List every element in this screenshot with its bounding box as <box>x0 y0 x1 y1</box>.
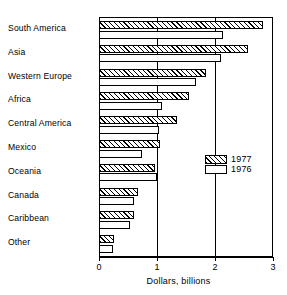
x-tick-1 <box>157 257 158 261</box>
bar-group <box>99 18 274 42</box>
x-tick-2 <box>215 257 216 261</box>
x-tick-label-0: 0 <box>96 262 101 272</box>
bar-1977 <box>99 45 248 53</box>
legend-swatch-1977 <box>205 155 227 164</box>
bar-1976 <box>99 54 221 62</box>
bar-1976 <box>99 197 134 205</box>
bar-chart: South AmericaAsiaWestern EuropeAfricaCen… <box>0 0 287 295</box>
bar-group <box>99 208 274 232</box>
bar-1977 <box>99 164 155 172</box>
category-label: Asia <box>0 47 89 57</box>
x-axis-title: Dollars, billions <box>0 276 287 286</box>
bar-1977 <box>99 140 160 148</box>
bar-1976 <box>99 150 142 158</box>
bar-1976 <box>99 78 196 86</box>
bar-1976 <box>99 173 157 181</box>
x-tick-label-1: 1 <box>154 262 159 272</box>
bar-1976 <box>99 245 113 253</box>
bar-group <box>99 185 274 209</box>
bar-group <box>99 66 274 90</box>
x-tick-0 <box>99 257 100 261</box>
category-label: Mexico <box>0 142 89 152</box>
category-label: Oceania <box>0 166 89 176</box>
category-label: Central America <box>0 118 89 128</box>
bar-1977 <box>99 21 263 29</box>
category-label: South America <box>0 23 89 33</box>
bar-1977 <box>99 188 138 196</box>
bar-1977 <box>99 235 114 243</box>
legend-label-1976: 1976 <box>231 165 252 174</box>
bar-group <box>99 113 274 137</box>
x-tick-3 <box>273 257 274 261</box>
category-label: Africa <box>0 94 89 104</box>
x-tick-label-2: 2 <box>212 262 217 272</box>
bar-1977 <box>99 92 189 100</box>
bar-1976 <box>99 221 130 229</box>
chart-legend: 1977 1976 <box>205 155 273 179</box>
category-label: Other <box>0 237 89 247</box>
bar-1976 <box>99 126 159 134</box>
category-label: Western Europe <box>0 71 89 81</box>
x-axis-line <box>99 257 274 258</box>
legend-label-1977: 1977 <box>231 155 252 164</box>
legend-swatch-1976 <box>205 165 227 174</box>
category-label: Canada <box>0 190 89 200</box>
bar-group <box>99 232 274 256</box>
bar-1976 <box>99 31 223 39</box>
x-axis-title-text: Dollars, billions <box>147 276 211 286</box>
category-axis-labels: South AmericaAsiaWestern EuropeAfricaCen… <box>0 18 95 256</box>
bars-container <box>99 18 274 256</box>
bar-group <box>99 42 274 66</box>
bar-1976 <box>99 102 162 110</box>
bar-1977 <box>99 211 134 219</box>
x-tick-label-3: 3 <box>270 262 275 272</box>
bar-group <box>99 89 274 113</box>
bar-1977 <box>99 116 177 124</box>
bar-1977 <box>99 69 206 77</box>
category-label: Caribbean <box>0 213 89 223</box>
